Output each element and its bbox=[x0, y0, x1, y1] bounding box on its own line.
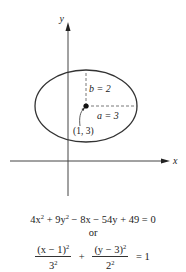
or-text: or bbox=[89, 227, 98, 238]
fraction-y-numerator: (y − 3)2 bbox=[92, 241, 128, 257]
fraction-x-numerator: (x − 1)2 bbox=[35, 241, 71, 257]
plus-sign: + bbox=[79, 251, 85, 262]
fraction-x-denominator: 32 bbox=[35, 257, 71, 272]
general-form-equation: 4x2 + 9y2 − 8x − 54y + 49 = 0 bbox=[0, 213, 186, 225]
y-axis-label: y bbox=[59, 13, 65, 24]
semi-major-label: a = 3 bbox=[97, 110, 119, 121]
fraction-x-term: (x − 1)2 32 bbox=[35, 241, 71, 272]
x-axis: x bbox=[10, 155, 178, 166]
equals-one: = 1 bbox=[136, 251, 150, 262]
equation-connector: or bbox=[0, 227, 186, 238]
x-axis-label: x bbox=[172, 155, 178, 166]
center-label: (1, 3) bbox=[73, 126, 94, 137]
standard-form-equation: (x − 1)2 32 + (y − 3)2 22 = 1 bbox=[0, 241, 186, 272]
fraction-y-term: (y − 3)2 22 bbox=[92, 241, 128, 272]
eq-term-1: 4x bbox=[30, 214, 41, 225]
y-axis: y bbox=[59, 13, 71, 196]
eq-term-2: + 9y bbox=[44, 214, 66, 225]
eq-term-3: − 8x − 54y + 49 = 0 bbox=[69, 214, 156, 225]
fraction-y-denominator: 22 bbox=[92, 257, 128, 272]
y-axis-arrow-icon bbox=[66, 22, 71, 31]
x-axis-arrow-icon bbox=[161, 159, 170, 164]
center-pointer bbox=[80, 109, 84, 127]
semi-minor-label: b = 2 bbox=[89, 83, 111, 94]
